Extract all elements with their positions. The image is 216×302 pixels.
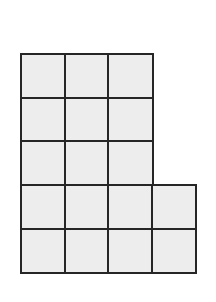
grid-square xyxy=(20,140,66,186)
square-grid-figure xyxy=(0,0,216,302)
grid-square xyxy=(64,228,110,274)
grid-square xyxy=(107,184,153,230)
grid-square xyxy=(64,53,110,99)
grid-square xyxy=(107,140,153,186)
grid-square xyxy=(107,97,153,143)
grid-square xyxy=(20,53,66,99)
grid-square xyxy=(64,140,110,186)
grid-square xyxy=(20,97,66,143)
grid-square xyxy=(151,184,197,230)
grid-square xyxy=(20,184,66,230)
grid-square xyxy=(107,53,153,99)
grid-square xyxy=(107,228,153,274)
grid-square xyxy=(151,228,197,274)
grid-square xyxy=(64,97,110,143)
grid-square xyxy=(64,184,110,230)
grid-square xyxy=(20,228,66,274)
